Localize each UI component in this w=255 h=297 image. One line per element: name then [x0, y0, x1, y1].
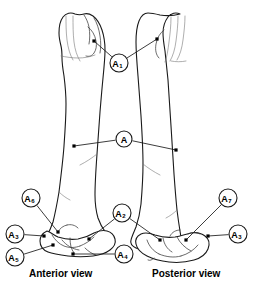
posterior-detail-5 — [171, 61, 186, 62]
leader-line-a3-right-1 — [208, 235, 229, 236]
landmark-dot-a-1 — [72, 144, 75, 147]
landmark-dot-a4-1 — [71, 252, 74, 255]
landmark-dot-a-2 — [174, 148, 177, 151]
anterior-shaft-outline — [46, 13, 109, 251]
callout-a[interactable]: A — [116, 131, 132, 147]
callout-a3-right[interactable]: A3 — [229, 225, 247, 243]
callout-a5[interactable]: A5 — [6, 248, 24, 266]
caption-anterior-view: Anterior view — [29, 268, 92, 279]
humerus-figure: A1AA2A3A4A5A6A7A3 Anterior view Posterio… — [0, 0, 255, 297]
landmark-dot-a1-1 — [92, 39, 95, 42]
callout-a3-left[interactable]: A3 — [6, 225, 24, 243]
posterior-distal-outline — [136, 233, 209, 263]
landmark-dot-a2-2 — [158, 238, 161, 241]
callout-a6[interactable]: A6 — [22, 189, 40, 207]
callout-a2[interactable]: A2 — [113, 204, 131, 222]
posterior-detail-1 — [177, 16, 185, 60]
landmark-dot-a6-1 — [56, 230, 59, 233]
humerus-illustration-svg: A1AA2A3A4A5A6A7A3 — [0, 0, 255, 297]
posterior-distal-detail-6 — [148, 258, 154, 260]
landmark-dot-a7-1 — [184, 238, 187, 241]
callout-a1[interactable]: A1 — [110, 54, 128, 72]
landmark-dot-a3-right-1 — [206, 234, 209, 237]
caption-posterior-view: Posterior view — [152, 268, 220, 279]
posterior-detail-2 — [170, 16, 178, 61]
callout-label-a: A — [121, 135, 128, 145]
landmark-dot-a2-1 — [87, 237, 90, 240]
callout-a7[interactable]: A7 — [219, 189, 237, 207]
callout-a4[interactable]: A4 — [115, 245, 133, 263]
landmark-dot-a1-2 — [155, 37, 158, 40]
landmark-dot-a3-left-1 — [42, 234, 45, 237]
bone-humerus-posterior — [131, 13, 209, 262]
landmark-dot-a5-1 — [51, 243, 54, 246]
